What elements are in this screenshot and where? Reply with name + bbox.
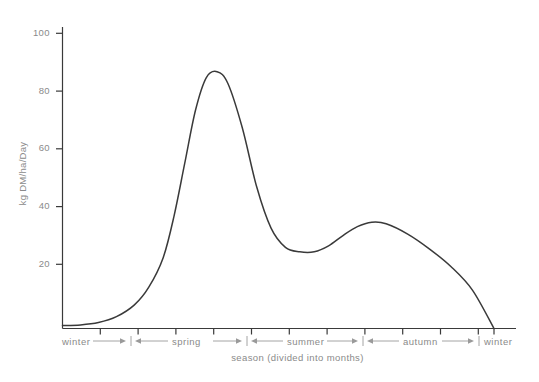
x-axis-caption-text: season (divided into months) bbox=[231, 352, 364, 363]
y-ticks-group bbox=[56, 33, 63, 264]
season-label-winter-end: winter bbox=[484, 336, 512, 347]
season-label-spring: spring bbox=[172, 336, 201, 347]
x-axis-caption: season (divided into months) bbox=[0, 352, 539, 363]
season-label-winter: winter bbox=[62, 336, 90, 347]
y-tick-label-100: 100 bbox=[22, 27, 50, 38]
season-label-summer: summer bbox=[287, 336, 324, 347]
growth-rate-curve bbox=[63, 71, 495, 328]
y-tick-label-20: 20 bbox=[22, 258, 50, 269]
y-tick-label-80: 80 bbox=[22, 85, 50, 96]
axes-group bbox=[63, 27, 517, 329]
grass-growth-chart: 100 80 60 40 20 kg DM/ha/Day winter spri… bbox=[0, 0, 539, 382]
plot-area bbox=[0, 0, 539, 382]
x-ticks-group bbox=[100, 329, 494, 335]
season-arrow-spring-head-right bbox=[236, 338, 242, 344]
season-arrow-summer-head-right bbox=[352, 338, 358, 344]
y-axis-title: kg DM/ha/Day bbox=[17, 129, 28, 219]
season-arrow-winter-head bbox=[120, 338, 126, 344]
season-arrow-autumn-head-right bbox=[468, 338, 474, 344]
season-label-autumn: autumn bbox=[403, 336, 438, 347]
